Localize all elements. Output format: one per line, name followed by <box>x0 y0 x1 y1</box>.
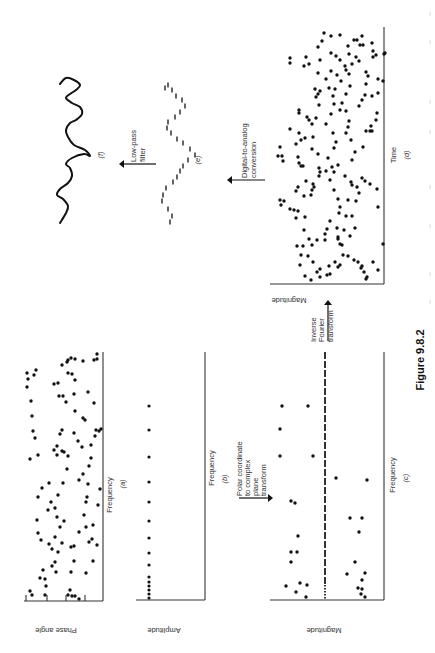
data-point <box>360 587 363 590</box>
data-point <box>363 595 366 598</box>
data-point <box>288 127 291 130</box>
data-point <box>304 179 307 182</box>
data-point <box>57 394 60 397</box>
data-point <box>83 418 86 421</box>
data-point <box>298 263 301 266</box>
data-point <box>348 84 351 87</box>
data-point <box>73 378 76 381</box>
data-point <box>316 45 319 48</box>
data-point <box>289 550 292 553</box>
data-point <box>147 455 150 458</box>
data-point <box>355 38 358 41</box>
data-point <box>360 176 363 179</box>
data-point <box>147 592 150 595</box>
data-point <box>36 531 39 534</box>
data-point <box>294 590 297 593</box>
data-point <box>55 453 58 456</box>
svg-text:Low-pass: Low-pass <box>129 130 138 162</box>
data-point <box>342 228 345 231</box>
data-point <box>58 525 61 528</box>
data-point <box>69 356 72 359</box>
data-point <box>360 98 363 101</box>
data-point <box>376 268 379 271</box>
data-point <box>52 382 55 385</box>
data-point <box>360 516 363 519</box>
data-point <box>371 260 374 263</box>
panel-a-phase: Frequency (a) Phase angle <box>24 352 127 635</box>
panel-e-steps <box>162 83 195 225</box>
data-point <box>60 428 63 431</box>
panel-a-ylabel: Phase angle <box>35 626 77 635</box>
data-point <box>358 43 361 46</box>
data-point <box>344 131 347 134</box>
data-point <box>56 550 59 553</box>
data-point <box>53 535 56 538</box>
data-point <box>318 89 321 92</box>
data-point <box>381 79 384 82</box>
data-point <box>38 576 41 579</box>
svg-text:Fourier: Fourier <box>317 318 326 342</box>
data-point <box>297 111 300 114</box>
data-point <box>94 428 97 431</box>
data-point <box>278 145 281 148</box>
data-point <box>311 182 314 185</box>
data-point <box>371 55 374 58</box>
data-point <box>332 170 335 173</box>
data-point <box>147 575 150 578</box>
data-point <box>60 541 63 544</box>
panel-e-tag: (e) <box>193 155 202 165</box>
data-point <box>77 597 80 600</box>
data-point <box>52 448 55 451</box>
data-point <box>301 164 304 167</box>
data-point <box>297 108 300 111</box>
data-point <box>46 508 49 511</box>
data-point <box>147 551 150 554</box>
data-point <box>323 232 326 235</box>
data-point <box>374 53 377 56</box>
figure-9-8-2: Frequency (a) Phase angle Frequency (b) … <box>0 0 435 653</box>
data-point <box>36 495 39 498</box>
data-point <box>329 34 332 37</box>
data-point <box>328 219 331 222</box>
data-point <box>31 429 34 432</box>
data-point <box>352 258 355 261</box>
data-point <box>365 478 368 481</box>
data-point <box>357 59 360 62</box>
data-point <box>350 183 353 186</box>
arrow-ifft-line: transform <box>326 310 335 342</box>
data-point <box>357 104 360 107</box>
data-point <box>294 216 297 219</box>
data-point <box>311 454 314 457</box>
data-point <box>326 156 329 159</box>
data-point <box>331 94 334 97</box>
data-point <box>276 154 279 157</box>
data-point <box>336 163 339 166</box>
data-point <box>61 481 64 484</box>
data-point <box>310 243 313 246</box>
data-point <box>361 43 364 46</box>
data-point <box>317 103 320 106</box>
data-point <box>376 91 379 94</box>
panel-c-tag: (c) <box>401 473 410 482</box>
data-point <box>368 182 371 185</box>
data-point <box>95 352 98 355</box>
data-point <box>70 594 73 597</box>
data-point <box>357 530 360 533</box>
data-point <box>44 584 47 587</box>
data-point <box>305 115 308 118</box>
data-point <box>301 244 304 247</box>
data-point <box>338 58 341 61</box>
data-point <box>43 577 46 580</box>
panel-a-xlabel: Frequency <box>105 477 114 513</box>
data-point <box>58 432 61 435</box>
data-point <box>302 64 305 67</box>
data-point <box>76 439 79 442</box>
data-point <box>310 122 313 125</box>
data-point <box>310 188 313 191</box>
data-point <box>340 101 343 104</box>
data-point <box>324 77 327 80</box>
data-point <box>147 428 150 431</box>
arrow-inverse-fourier: Inverse Fourier transform <box>309 300 335 342</box>
data-point <box>302 194 305 197</box>
data-point <box>295 550 298 553</box>
